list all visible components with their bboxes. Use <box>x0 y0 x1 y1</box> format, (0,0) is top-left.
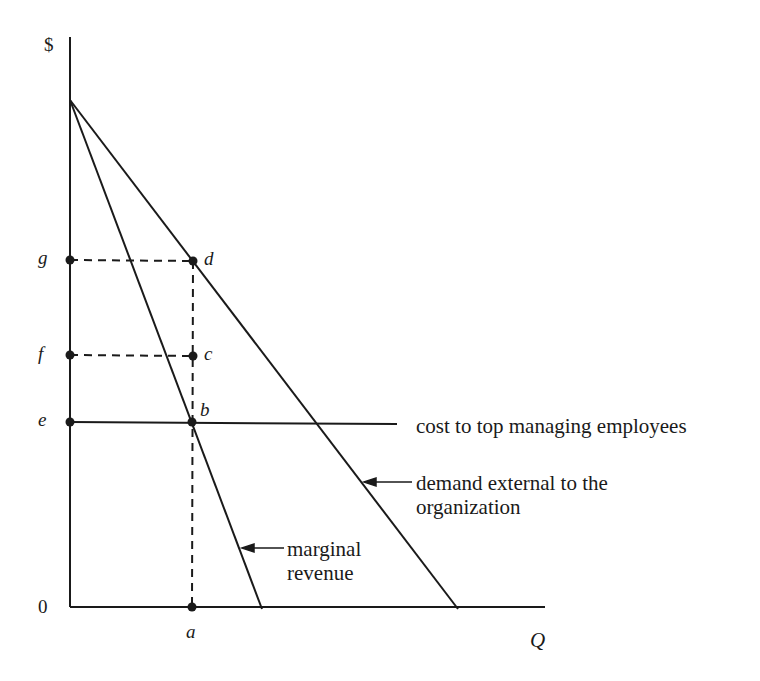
mr-annotation-line1: marginal <box>287 537 361 561</box>
point-d <box>189 257 198 266</box>
dashed-d-a <box>192 261 193 607</box>
demand-annotation-line2: organization <box>416 495 608 519</box>
dashed-f-c <box>70 355 193 356</box>
label-e: e <box>38 410 46 429</box>
point-b <box>188 418 197 427</box>
label-a: a <box>186 622 196 641</box>
point-g <box>66 256 75 265</box>
label-b: b <box>200 400 210 419</box>
y-axis-label: $ <box>44 35 54 54</box>
point-f <box>66 351 75 360</box>
x-axis-label: Q <box>530 630 545 651</box>
mr-annotation-line2: revenue <box>287 561 361 585</box>
diagram-canvas <box>0 0 760 681</box>
mr-arrowhead-icon <box>242 544 254 552</box>
label-c: c <box>204 344 212 363</box>
label-f: f <box>38 344 43 363</box>
label-d: d <box>204 249 214 268</box>
cost-annotation: cost to top managing employees <box>416 414 687 438</box>
cost-line <box>70 422 397 424</box>
point-e <box>66 418 75 427</box>
point-c <box>189 352 198 361</box>
dashed-g-d <box>70 260 193 261</box>
marginal-revenue-annotation: marginal revenue <box>287 537 361 585</box>
demand-annotation: demand external to the organization <box>416 471 608 519</box>
label-g: g <box>38 248 48 267</box>
demand-arrowhead-icon <box>364 478 376 486</box>
demand-annotation-line1: demand external to the <box>416 471 608 495</box>
origin-label: 0 <box>38 597 48 616</box>
point-a <box>188 603 197 612</box>
